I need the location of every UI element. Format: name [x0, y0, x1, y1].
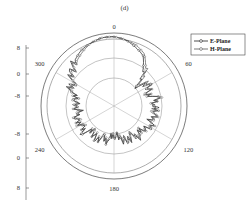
legend-label: E-Plane [210, 38, 231, 44]
radial-tick-label: 8 [17, 44, 20, 51]
polar-grid [41, 33, 187, 179]
radial-tick-label: 8 [17, 184, 20, 191]
radial-axis: 80-8-808 [15, 44, 29, 200]
angle-label: 180 [109, 185, 119, 192]
radial-tick-label: -8 [15, 130, 20, 137]
angle-label: 0 [112, 23, 115, 30]
angle-label: 120 [184, 146, 194, 153]
series-h-plane [68, 37, 162, 144]
polar-chart: 80-8-808 060120180240300 E-PlaneH-Plane [0, 0, 249, 215]
radial-tick-label: 0 [17, 154, 20, 161]
angle-label: 240 [35, 146, 45, 153]
radial-tick-label: 0 [17, 70, 20, 77]
radial-tick-label: -8 [15, 92, 20, 99]
angle-label: 300 [35, 60, 45, 67]
angle-label: 60 [185, 60, 192, 67]
legend-marker-icon [200, 48, 203, 51]
data-series [66, 36, 163, 146]
legend-marker-icon [200, 40, 203, 43]
legend: E-PlaneH-Plane [191, 34, 245, 55]
legend-label: H-Plane [210, 46, 231, 52]
